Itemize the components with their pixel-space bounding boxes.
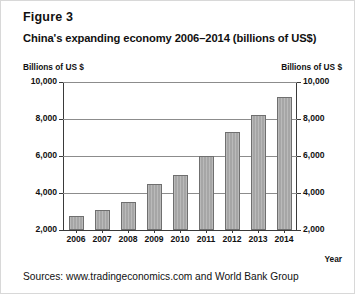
y-axis-tick-label: 2,000 <box>303 225 325 234</box>
x-axis-tick-label: 2013 <box>248 234 267 244</box>
y-axis-tick-label: 6,000 <box>35 151 57 160</box>
y-axis-tick <box>59 230 63 231</box>
y-axis-tick <box>297 193 301 194</box>
sources-note: Sources: www.tradingeconomics.com and Wo… <box>23 271 299 282</box>
y-axis-tick-label: 2,000 <box>35 225 57 234</box>
y-axis-tick-label: 6,000 <box>303 151 325 160</box>
x-axis-tick-label: 2009 <box>144 234 163 244</box>
x-axis-tick <box>102 230 103 233</box>
y-axis-tick <box>59 193 63 194</box>
bar-2008 <box>121 202 136 230</box>
y-axis-tick <box>297 230 301 231</box>
y-axis-tick-label: 4,000 <box>35 188 57 197</box>
x-axis-tick <box>154 230 155 233</box>
x-axis-tick-label: 2010 <box>170 234 189 244</box>
y-axis-tick <box>297 119 301 120</box>
x-axis-tick <box>180 230 181 233</box>
y-axis-tick <box>297 156 301 157</box>
x-axis-tick <box>284 230 285 233</box>
bar-2012 <box>225 132 240 230</box>
x-axis-tick-label: 2014 <box>274 234 293 244</box>
x-axis-tick-label: 2007 <box>92 234 111 244</box>
bar-2006 <box>69 216 84 230</box>
y-axis-tick <box>59 156 63 157</box>
y-axis-tick-label: 8,000 <box>35 114 57 123</box>
x-axis-tick <box>258 230 259 233</box>
bar-2011 <box>199 156 214 230</box>
bar-2009 <box>147 184 162 230</box>
bar-chart-plot-area: 2,0004,0006,0008,00010,000 2,0004,0006,0… <box>63 82 297 230</box>
bar-2013 <box>251 115 266 230</box>
y-axis-caption-left: Billions of US $ <box>23 62 84 72</box>
y-axis-tick-label: 10,000 <box>303 77 329 86</box>
gridline <box>63 82 297 83</box>
figure-label: Figure 3 <box>23 10 73 24</box>
x-axis-tick <box>206 230 207 233</box>
x-axis-tick <box>128 230 129 233</box>
x-axis-tick <box>76 230 77 233</box>
x-axis-tick-label: 2008 <box>118 234 137 244</box>
y-axis-tick-label: 4,000 <box>303 188 325 197</box>
y-axis-tick-label: 8,000 <box>303 114 325 123</box>
y-axis-caption-right: Billions of US $ <box>281 62 342 72</box>
x-axis-tick-label: 2006 <box>66 234 85 244</box>
y-axis-tick <box>59 82 63 83</box>
x-axis-tick-label: 2012 <box>222 234 241 244</box>
figure-card: Figure 3 China's expanding economy 2006–… <box>0 0 355 294</box>
x-axis-tick-label: 2011 <box>197 234 216 244</box>
y-axis-tick-label: 10,000 <box>31 77 57 86</box>
x-axis-tick <box>232 230 233 233</box>
bar-2014 <box>277 97 292 230</box>
y-axis-tick <box>59 119 63 120</box>
x-axis-caption: Year <box>324 254 342 264</box>
bar-2010 <box>173 175 188 231</box>
bar-2007 <box>95 210 110 230</box>
y-axis-tick <box>297 82 301 83</box>
figure-title: China's expanding economy 2006–2014 (bil… <box>23 32 316 44</box>
